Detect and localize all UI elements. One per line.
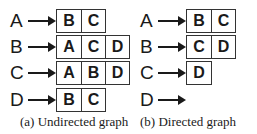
neighbor-cell: C [81, 36, 105, 58]
neighbor-cell: C [187, 36, 211, 58]
vertex-label: D [140, 88, 154, 112]
arrow-icon [154, 9, 186, 33]
neighbor-list: ABD [56, 61, 130, 85]
neighbor-cell: B [57, 89, 81, 111]
arrow-icon [154, 88, 186, 112]
adjacency-row: ABC [140, 9, 236, 33]
neighbor-cell: A [57, 36, 81, 58]
adjacency-row: BCD [140, 35, 236, 59]
neighbor-cell: C [81, 89, 105, 111]
vertex-label: A [140, 9, 154, 33]
arrow-icon [24, 61, 56, 85]
neighbor-cell: B [81, 62, 105, 84]
arrow-icon [24, 88, 56, 112]
neighbor-cell: D [211, 36, 235, 58]
panel-caption: (b) Directed graph [140, 114, 236, 130]
neighbor-cell: D [105, 36, 129, 58]
adjacency-row: D [140, 88, 186, 112]
panel-caption: (a) Undirected graph [20, 114, 128, 130]
neighbor-cell: D [105, 62, 129, 84]
adjacency-row: BACD [10, 35, 130, 59]
neighbor-list: BC [56, 9, 106, 33]
vertex-label: B [140, 35, 154, 59]
neighbor-cell: B [187, 10, 211, 32]
vertex-label: C [10, 61, 24, 85]
neighbor-list: ACD [56, 35, 130, 59]
adjacency-row: ABC [10, 9, 106, 33]
arrow-icon [24, 9, 56, 33]
arrow-icon [154, 35, 186, 59]
neighbor-list: BC [56, 88, 106, 112]
neighbor-cell: C [81, 10, 105, 32]
neighbor-list: D [186, 61, 212, 85]
neighbor-cell: D [187, 62, 211, 84]
vertex-label: C [140, 61, 154, 85]
vertex-label: A [10, 9, 24, 33]
adjacency-row: CD [140, 61, 212, 85]
arrow-icon [154, 61, 186, 85]
directed-graph-panel: ABCBCDCDD(b) Directed graph [130, 0, 257, 134]
vertex-label: B [10, 35, 24, 59]
neighbor-list: BC [186, 9, 236, 33]
neighbor-list: CD [186, 35, 236, 59]
neighbor-cell: B [57, 10, 81, 32]
arrow-icon [24, 35, 56, 59]
vertex-label: D [10, 88, 24, 112]
neighbor-cell: C [211, 10, 235, 32]
adjacency-row: DBC [10, 88, 106, 112]
undirected-graph-panel: ABCBACDCABDDBC(a) Undirected graph [0, 0, 130, 134]
adjacency-row: CABD [10, 61, 130, 85]
neighbor-cell: A [57, 62, 81, 84]
